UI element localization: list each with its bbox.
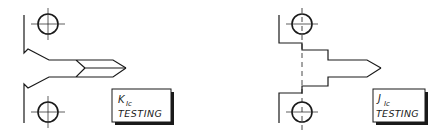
kic-label-box: K Ic TESTING <box>112 89 174 125</box>
kic-upper-edge <box>24 15 126 68</box>
kic-lower-edge <box>24 68 126 123</box>
jic-upper-edge <box>279 15 381 68</box>
fracture-testing-diagram: K Ic TESTING J Ic TESTING <box>0 0 448 135</box>
jic-label-box: J Ic TESTING <box>373 89 428 125</box>
kic-specimen <box>24 8 126 128</box>
jic-specimen <box>279 8 381 130</box>
kic-label-text: TESTING <box>118 108 162 119</box>
kic-upper-pin-hole-icon <box>31 8 65 40</box>
jic-label-subscript: Ic <box>384 100 390 108</box>
jic-lower-edge <box>279 68 381 123</box>
kic-label-subscript: Ic <box>126 100 132 108</box>
kic-lower-pin-hole-icon <box>31 96 65 128</box>
jic-label-text: TESTING <box>376 108 419 119</box>
